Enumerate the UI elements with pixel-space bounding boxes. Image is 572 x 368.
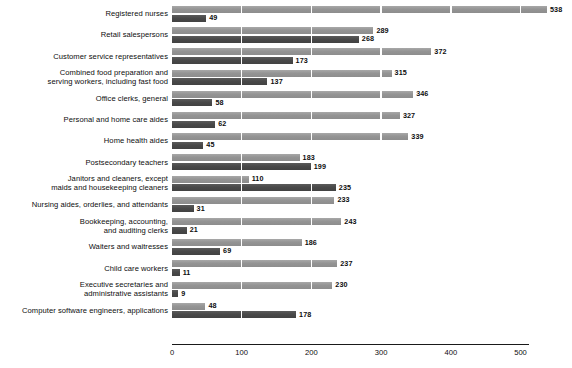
gridline bbox=[241, 133, 243, 140]
category-label: Bookkeeping, accounting, and auditing cl… bbox=[0, 217, 172, 235]
gridline bbox=[311, 260, 313, 267]
bar-value-label: 372 bbox=[434, 48, 446, 56]
bar-row: 237 bbox=[172, 260, 572, 267]
bar-row: 538 bbox=[172, 6, 572, 13]
bar-row: 327 bbox=[172, 112, 572, 119]
bar-light bbox=[172, 27, 373, 34]
bar-value-label: 346 bbox=[416, 90, 428, 98]
bar-value-label: 315 bbox=[395, 69, 407, 77]
bar-light bbox=[172, 154, 300, 161]
bar-row: 243 bbox=[172, 218, 572, 225]
x-axis-tick-label: 0 bbox=[170, 348, 174, 357]
bar-light bbox=[172, 176, 249, 183]
bar-light bbox=[172, 48, 431, 55]
bar-value-label: 233 bbox=[337, 196, 349, 204]
bar-value-label: 49 bbox=[209, 14, 217, 22]
x-axis-tick-label: 400 bbox=[444, 348, 457, 357]
bar-light bbox=[172, 91, 413, 98]
category-label: Waiters and waitresses bbox=[0, 242, 172, 251]
x-axis-tick-label: 300 bbox=[375, 348, 388, 357]
bar-row: 49 bbox=[172, 15, 572, 22]
bar-row: 289 bbox=[172, 27, 572, 34]
bar-value-label: 62 bbox=[218, 120, 226, 128]
bar-dark bbox=[172, 142, 203, 149]
bar-row: 31 bbox=[172, 205, 572, 212]
gridline bbox=[311, 197, 313, 204]
bar-dark bbox=[172, 248, 220, 255]
x-axis-line bbox=[172, 344, 529, 345]
gridline bbox=[241, 57, 243, 64]
bar-row: 21 bbox=[172, 227, 572, 234]
gridline bbox=[241, 311, 243, 318]
category-label: Computer software engineers, application… bbox=[0, 306, 172, 315]
bar-dark bbox=[172, 269, 180, 276]
category-label: Registered nurses bbox=[0, 9, 172, 18]
bar-value-label: 186 bbox=[305, 239, 317, 247]
gridline bbox=[311, 184, 313, 191]
gridline bbox=[450, 6, 452, 13]
plot-area: Registered nurses53849Retail salesperson… bbox=[0, 0, 572, 368]
gridline bbox=[380, 6, 382, 13]
bar-row: 11 bbox=[172, 269, 572, 276]
bar-row: 346 bbox=[172, 91, 572, 98]
category-label: Office clerks, general bbox=[0, 94, 172, 103]
bar-light bbox=[172, 239, 302, 246]
bar-row: 230 bbox=[172, 282, 572, 289]
gridline bbox=[241, 197, 243, 204]
bar-row: 48 bbox=[172, 303, 572, 310]
bar-value-label: 327 bbox=[403, 112, 415, 120]
bar-value-label: 268 bbox=[362, 35, 374, 43]
bar-light bbox=[172, 197, 334, 204]
gridline bbox=[380, 70, 382, 77]
bar-value-label: 31 bbox=[197, 205, 205, 213]
bar-row: 69 bbox=[172, 248, 572, 255]
bar-row: 315 bbox=[172, 70, 572, 77]
gridline bbox=[380, 48, 382, 55]
bar-row: 235 bbox=[172, 184, 572, 191]
gridline bbox=[241, 218, 243, 225]
bar-value-label: 69 bbox=[223, 247, 231, 255]
bar-row: 9 bbox=[172, 290, 572, 297]
bar-value-label: 289 bbox=[376, 27, 388, 35]
gridline bbox=[311, 133, 313, 140]
gridline bbox=[241, 163, 243, 170]
gridline bbox=[311, 70, 313, 77]
bar-dark bbox=[172, 99, 212, 106]
gridline bbox=[241, 27, 243, 34]
bar-dark bbox=[172, 227, 187, 234]
bar-light bbox=[172, 303, 205, 310]
gridline bbox=[380, 133, 382, 140]
bar-value-label: 9 bbox=[181, 290, 185, 298]
bar-dark bbox=[172, 36, 359, 43]
bar-dark bbox=[172, 78, 267, 85]
gridline bbox=[241, 48, 243, 55]
bar-dark bbox=[172, 57, 293, 64]
bar-value-label: 230 bbox=[335, 281, 347, 289]
bar-row: 199 bbox=[172, 163, 572, 170]
gridline bbox=[241, 112, 243, 119]
gridline bbox=[241, 176, 243, 183]
bar-value-label: 110 bbox=[252, 175, 264, 183]
bar-light bbox=[172, 260, 337, 267]
x-axis-tick-label: 200 bbox=[305, 348, 318, 357]
gridline bbox=[241, 239, 243, 246]
gridline bbox=[380, 91, 382, 98]
bar-value-label: 243 bbox=[344, 218, 356, 226]
bar-row: 339 bbox=[172, 133, 572, 140]
gridline bbox=[520, 6, 522, 13]
bar-row: 233 bbox=[172, 197, 572, 204]
bar-dark bbox=[172, 205, 194, 212]
bar-row: 178 bbox=[172, 311, 572, 318]
bar-dark bbox=[172, 184, 336, 191]
bar-value-label: 48 bbox=[208, 302, 216, 310]
bar-row: 137 bbox=[172, 78, 572, 85]
gridline bbox=[311, 112, 313, 119]
category-label: Nursing aides, orderlies, and attendants bbox=[0, 200, 172, 209]
bar-row: 62 bbox=[172, 121, 572, 128]
gridline bbox=[241, 91, 243, 98]
bar-light bbox=[172, 282, 332, 289]
gridline bbox=[311, 6, 313, 13]
bar-value-label: 137 bbox=[270, 78, 282, 86]
gridline bbox=[241, 36, 243, 43]
bar-row: 45 bbox=[172, 142, 572, 149]
